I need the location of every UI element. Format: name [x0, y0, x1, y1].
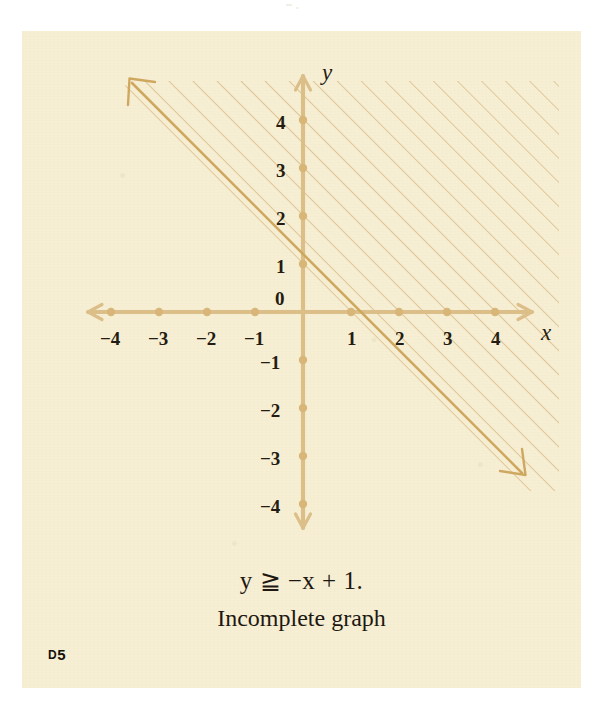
x-tick-dot [155, 308, 163, 316]
x-tick-dot [347, 308, 355, 316]
y-tick-dot [299, 212, 307, 220]
screenshot-root: −4 −3 −2 −1 1 2 3 4 4 3 2 1 0 −1 −2 −3 −… [0, 0, 607, 712]
y-tick-dot [299, 500, 307, 508]
y-tick-dot [299, 404, 307, 412]
x-tick-dot [395, 308, 403, 316]
x-axis-label: x [541, 321, 551, 344]
y-tick-dot [299, 356, 307, 364]
x-tick-dot [251, 308, 259, 316]
y-tick-label--3: −3 [260, 449, 280, 468]
x-tick-label-2: 2 [395, 329, 405, 348]
y-tick-label--1: −1 [260, 353, 280, 372]
y-tick-label-1: 1 [276, 257, 286, 276]
y-tick-label-3: 3 [276, 161, 286, 180]
x-tick-label--1: −1 [244, 329, 264, 348]
x-tick-label-3: 3 [443, 329, 453, 348]
x-tick-label--3: −3 [148, 329, 168, 348]
x-tick-label-4: 4 [491, 329, 501, 348]
y-tick-label--4: −4 [260, 497, 280, 516]
y-tick-dot [299, 116, 307, 124]
x-tick-label--2: −2 [196, 329, 216, 348]
x-tick-dot [107, 308, 115, 316]
y-tick-dot [299, 260, 307, 268]
figure-caption: y ≧ −x + 1. Incomplete graph [22, 567, 581, 631]
y-tick-dot [299, 164, 307, 172]
y-axis-label: y [322, 61, 332, 84]
scan-artifact-mark [296, 7, 299, 9]
caption-note: Incomplete graph [22, 605, 581, 631]
y-tick-label-4: 4 [276, 113, 286, 132]
x-tick-dot [491, 308, 499, 316]
y-tick-dot [299, 452, 307, 460]
x-tick-label-1: 1 [347, 329, 357, 348]
shaded-region [112, 71, 572, 501]
plate-id-number: 5 [57, 646, 66, 663]
plate-identifier: D5 [48, 646, 66, 663]
y-tick-label--2: −2 [260, 401, 280, 420]
x-tick-dot [203, 308, 211, 316]
x-tick-dot [443, 308, 451, 316]
origin-label: 0 [275, 289, 285, 308]
plate-id-prefix: D [48, 648, 57, 662]
coordinate-plane-svg [22, 31, 581, 551]
caption-equation: y ≧ −x + 1. [22, 567, 581, 596]
coordinate-plane-figure: −4 −3 −2 −1 1 2 3 4 4 3 2 1 0 −1 −2 −3 −… [22, 31, 581, 551]
x-tick-label--4: −4 [100, 329, 120, 348]
y-tick-label-2: 2 [276, 209, 286, 228]
textbook-page: −4 −3 −2 −1 1 2 3 4 4 3 2 1 0 −1 −2 −3 −… [22, 31, 581, 688]
scan-artifact-mark [286, 4, 292, 6]
